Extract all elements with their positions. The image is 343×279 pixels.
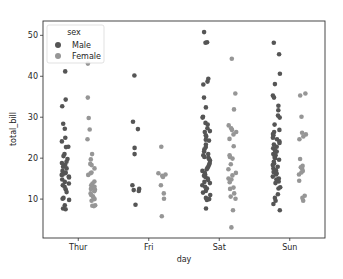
- data-point: [61, 154, 66, 159]
- y-tick-label: 30: [28, 113, 38, 122]
- data-point: [276, 186, 281, 191]
- data-point: [67, 181, 72, 186]
- data-point: [273, 181, 278, 186]
- data-point: [63, 135, 68, 140]
- data-point: [132, 73, 137, 78]
- data-point: [86, 95, 91, 100]
- x-axis: ThurFriSatSun: [68, 238, 297, 252]
- data-point: [272, 95, 277, 100]
- data-point: [160, 214, 165, 219]
- legend: sex Male Female: [47, 25, 104, 63]
- data-point: [204, 206, 209, 211]
- data-point: [159, 144, 164, 149]
- data-point: [232, 107, 237, 112]
- data-point: [207, 138, 212, 143]
- data-point: [298, 157, 303, 162]
- data-point: [59, 173, 64, 178]
- data-point: [227, 137, 232, 142]
- x-tick-label: Thur: [68, 243, 88, 252]
- data-point: [87, 127, 92, 132]
- data-point: [228, 187, 233, 192]
- y-tick-label: 40: [28, 72, 38, 81]
- legend-label-male: Male: [72, 41, 91, 50]
- data-point: [272, 122, 277, 127]
- data-point: [227, 180, 232, 185]
- y-tick-label: 20: [28, 154, 38, 163]
- data-point: [230, 56, 235, 61]
- data-point: [230, 156, 235, 161]
- data-point: [299, 115, 304, 120]
- data-point: [86, 116, 91, 121]
- y-axis-label: total_bill: [9, 112, 18, 146]
- data-point: [161, 175, 166, 180]
- data-point: [230, 128, 235, 133]
- data-point: [231, 132, 236, 137]
- data-point: [204, 105, 209, 110]
- data-point: [203, 40, 208, 45]
- data-point: [277, 141, 282, 146]
- data-point: [90, 152, 95, 157]
- data-point: [131, 188, 136, 193]
- data-point: [297, 172, 302, 177]
- legend-label-female: Female: [72, 52, 101, 61]
- data-point: [89, 157, 94, 162]
- data-point: [86, 173, 91, 178]
- data-point: [85, 137, 90, 142]
- data-point: [63, 207, 68, 212]
- data-point: [162, 191, 167, 196]
- data-point: [60, 104, 65, 109]
- data-point: [303, 91, 308, 96]
- data-point: [156, 171, 161, 176]
- data-point: [226, 167, 231, 172]
- data-point: [276, 192, 281, 197]
- data-point: [208, 193, 213, 198]
- data-point: [229, 225, 234, 230]
- data-point: [208, 129, 213, 134]
- data-point: [230, 173, 235, 178]
- data-point: [132, 152, 137, 157]
- data-point: [131, 119, 136, 124]
- data-point: [130, 183, 135, 188]
- data-point: [277, 115, 282, 120]
- x-axis-label: day: [177, 255, 192, 264]
- x-tick-label: Sun: [282, 243, 297, 252]
- data-point: [272, 40, 277, 45]
- data-point: [231, 144, 236, 149]
- data-point: [277, 158, 282, 163]
- data-point: [276, 108, 281, 113]
- data-point: [64, 190, 69, 195]
- data-point: [273, 82, 278, 87]
- data-point: [159, 183, 164, 188]
- data-point: [301, 198, 306, 203]
- data-point: [61, 122, 66, 127]
- data-point: [276, 104, 281, 109]
- data-point: [64, 166, 69, 171]
- data-point: [67, 175, 72, 180]
- data-point: [92, 204, 97, 209]
- y-tick-label: 50: [28, 31, 38, 40]
- legend-title: sex: [67, 28, 81, 37]
- data-point: [202, 155, 207, 160]
- strip-plot: 1020304050 ThurFriSatSun day total_bill …: [0, 0, 343, 279]
- data-point: [202, 95, 207, 100]
- data-point: [278, 208, 283, 213]
- data-point: [132, 146, 137, 151]
- data-point: [297, 178, 302, 183]
- data-point: [231, 208, 236, 213]
- legend-marker-male: [55, 42, 61, 48]
- data-point: [201, 82, 206, 87]
- data-point: [271, 174, 276, 179]
- data-point: [301, 134, 306, 139]
- data-point: [271, 202, 276, 207]
- data-point: [201, 190, 206, 195]
- data-point: [233, 91, 238, 96]
- data-point: [137, 189, 142, 194]
- x-tick-label: Sat: [213, 243, 226, 252]
- x-tick-label: Fri: [144, 243, 154, 252]
- data-point: [60, 196, 65, 201]
- data-point: [63, 69, 68, 74]
- data-point: [233, 196, 238, 201]
- data-point: [271, 135, 276, 140]
- data-point: [136, 127, 141, 132]
- y-tick-label: 10: [28, 195, 38, 204]
